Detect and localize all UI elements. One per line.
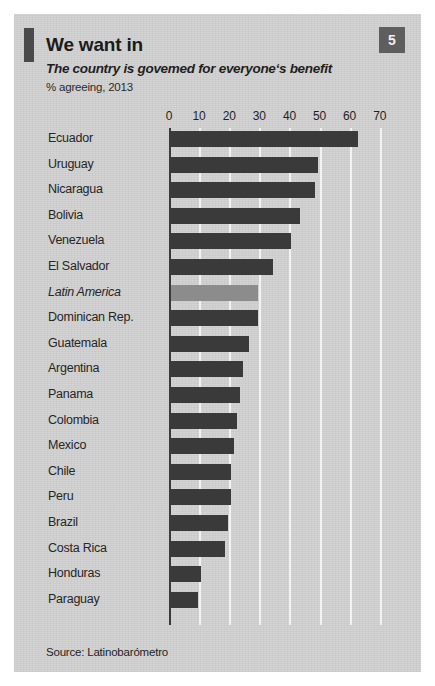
bar-latin-america xyxy=(171,285,258,301)
bar-uruguay xyxy=(171,157,318,173)
bar-label-costa-rica: Costa Rica xyxy=(48,541,107,555)
bar-label-uruguay: Uruguay xyxy=(48,157,94,171)
gridline-50 xyxy=(320,128,322,625)
bar-chart: 010203040506070EcuadorUruguayNicaraguaBo… xyxy=(14,14,421,672)
bar-label-ecuador: Ecuador xyxy=(48,131,93,145)
bar-label-guatemala: Guatemala xyxy=(48,336,107,350)
bar-label-dominican-rep: Dominican Rep. xyxy=(48,310,133,324)
bar-label-panama: Panama xyxy=(48,387,93,401)
bar-label-peru: Peru xyxy=(48,489,73,503)
bar-chile xyxy=(171,464,231,480)
bar-guatemala xyxy=(171,336,249,352)
chart-page: 5 We want in The country is govemed for … xyxy=(0,0,435,686)
bar-argentina xyxy=(171,361,243,377)
bar-label-honduras: Honduras xyxy=(48,566,100,580)
gridline-40 xyxy=(289,128,291,625)
bar-costa-rica xyxy=(171,541,225,557)
bar-label-chile: Chile xyxy=(48,464,75,478)
bar-label-mexico: Mexico xyxy=(48,438,86,452)
x-axis-tick-label: 40 xyxy=(274,109,304,123)
bar-colombia xyxy=(171,413,237,429)
x-axis-tick-label: 30 xyxy=(244,109,274,123)
bar-mexico xyxy=(171,438,234,454)
gridline-30 xyxy=(259,128,261,625)
bar-ecuador xyxy=(171,131,358,147)
x-axis-tick-label: 70 xyxy=(365,109,395,123)
bar-venezuela xyxy=(171,233,291,249)
bar-label-nicaragua: Nicaragua xyxy=(48,182,103,196)
bar-honduras xyxy=(171,566,201,582)
x-axis-tick-label: 50 xyxy=(305,109,335,123)
gridline-60 xyxy=(350,128,352,625)
chart-panel: 5 We want in The country is govemed for … xyxy=(14,14,421,672)
bar-label-bolivia: Bolivia xyxy=(48,208,83,222)
bar-label-colombia: Colombia xyxy=(48,413,99,427)
bar-nicaragua xyxy=(171,182,315,198)
gridline-70 xyxy=(380,128,382,625)
bar-panama xyxy=(171,387,240,403)
source-note: Source: Latinobarómetro xyxy=(46,646,168,658)
bar-paraguay xyxy=(171,592,198,608)
x-axis-tick-label: 0 xyxy=(154,109,184,123)
bar-label-argentina: Argentina xyxy=(48,361,99,375)
bar-brazil xyxy=(171,515,228,531)
x-axis-tick-label: 10 xyxy=(184,109,214,123)
bar-el-salvador xyxy=(171,259,273,275)
bar-label-latin-america: Latin America xyxy=(48,285,121,299)
bar-label-venezuela: Venezuela xyxy=(48,233,104,247)
bar-label-el-salvador: El Salvador xyxy=(48,259,109,273)
bar-peru xyxy=(171,489,231,505)
x-axis-tick-label: 60 xyxy=(335,109,365,123)
bar-label-brazil: Brazil xyxy=(48,515,78,529)
bar-bolivia xyxy=(171,208,300,224)
bar-label-paraguay: Paraguay xyxy=(48,592,100,606)
bar-dominican-rep xyxy=(171,310,258,326)
x-axis-tick-label: 20 xyxy=(214,109,244,123)
